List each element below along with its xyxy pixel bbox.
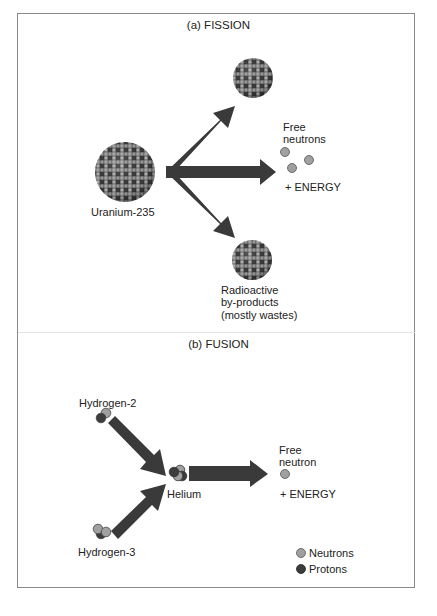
- free-neutrons-icon: [281, 148, 314, 173]
- fission-product-nucleus-icon: [233, 58, 273, 98]
- legend-protons-label: Protons: [309, 563, 347, 576]
- fission-arrows-icon: [166, 106, 276, 238]
- free-neutron-label-line2: neutron: [279, 456, 316, 469]
- helium-nucleus-icon: [169, 465, 187, 481]
- fission-title: (a) FISSION: [0, 19, 437, 31]
- byproducts-label-line2: by-products: [221, 296, 278, 309]
- fusion-title: (b) FUSION: [0, 338, 437, 350]
- fusion-arrows-icon: [108, 416, 268, 539]
- legend-proton-icon: [297, 565, 306, 574]
- fusion-energy-label: + ENERGY: [280, 488, 336, 501]
- free-neutrons-label-line1: Free: [283, 121, 306, 134]
- byproducts-label-line1: Radioactive: [221, 284, 278, 297]
- free-neutrons-label-line2: neutrons: [283, 133, 326, 146]
- byproducts-label-line3: (mostly wastes): [221, 309, 297, 322]
- legend-neutrons-label: Neutrons: [309, 547, 354, 560]
- uranium-235-label: Uranium-235: [91, 206, 155, 219]
- fission-energy-label: + ENERGY: [285, 181, 341, 194]
- helium-label: Helium: [167, 488, 201, 501]
- hydrogen-2-label: Hydrogen-2: [79, 397, 136, 410]
- hydrogen-3-nucleus-icon: [93, 524, 111, 539]
- hydrogen-3-label: Hydrogen-3: [78, 546, 135, 559]
- radioactive-byproduct-nucleus-icon: [232, 240, 272, 280]
- free-neutron-icon: [281, 470, 290, 479]
- uranium-235-nucleus-icon: [95, 142, 155, 202]
- hydrogen-2-nucleus-icon: [96, 408, 111, 423]
- diagram-art: [0, 0, 437, 616]
- legend-neutron-icon: [297, 549, 306, 558]
- free-neutron-label-line1: Free: [279, 444, 302, 457]
